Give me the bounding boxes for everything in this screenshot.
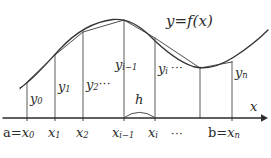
partition-label-x2: x2 bbox=[76, 126, 89, 140]
partition-ellipsis: ··· bbox=[171, 128, 183, 141]
partition-label-x0: a=x0 bbox=[3, 126, 34, 140]
partition-label-xn: b=xn bbox=[208, 126, 240, 140]
partition-label-x1: x1 bbox=[48, 126, 61, 140]
x-axis-arrowhead bbox=[261, 114, 268, 122]
partition-x0-prefix: a= bbox=[3, 125, 22, 140]
step-width-arc bbox=[125, 112, 154, 117]
partition-label-xi: xi bbox=[148, 126, 158, 140]
ordinate-yi-ellipsis: ··· bbox=[171, 62, 183, 75]
ordinate-label-yn: yn bbox=[235, 66, 248, 80]
x-axis bbox=[3, 114, 268, 122]
partition-xn-prefix: b= bbox=[208, 125, 227, 140]
ordinate-label-y0: y0 bbox=[30, 92, 43, 106]
ordinate-label-y1: y1 bbox=[58, 80, 71, 94]
function-label: y=f(x) bbox=[166, 14, 213, 29]
ordinate-y2-ellipsis: ··· bbox=[99, 78, 111, 91]
ordinate-label-yi-minus-1: yi−1 bbox=[115, 58, 137, 72]
trapezoidal-rule-figure: y=f(x) y0 y1 y2··· yi−1 yi··· yn h x a=x… bbox=[0, 0, 271, 158]
ordinate-label-yi: yi··· bbox=[158, 62, 184, 76]
step-width-label: h bbox=[135, 93, 143, 106]
x-axis-label: x bbox=[250, 100, 257, 113]
ordinate-label-y2: y2··· bbox=[86, 78, 111, 92]
partition-label-xi-minus-1: xi−1 bbox=[112, 126, 134, 140]
